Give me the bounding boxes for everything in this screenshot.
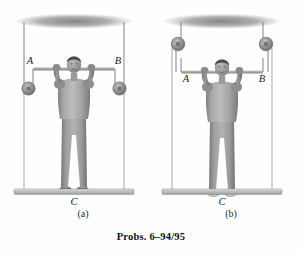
label-point-a-right: B	[115, 55, 122, 66]
panel-caption-a: (a)	[63, 208, 103, 219]
platform-b	[162, 189, 282, 194]
panel-a: A B C	[14, 14, 134, 208]
person-b	[201, 59, 243, 197]
weight-right-a	[113, 82, 126, 95]
panel-caption-b: (b)	[211, 208, 251, 219]
panel-b: A B C	[162, 14, 282, 208]
mechanics-figure-illustration: A B C	[0, 0, 302, 253]
label-point-a-ground: C	[70, 196, 78, 207]
ceiling-a	[16, 14, 132, 29]
person-a	[53, 56, 95, 194]
label-point-b-ground: C	[218, 196, 226, 207]
pulley-left-b	[171, 37, 185, 51]
figure-caption: Probs. 6–94/95	[0, 231, 302, 242]
platform-a	[14, 189, 134, 194]
weight-left-a	[22, 82, 35, 95]
figure-container: A B C	[0, 0, 302, 253]
label-point-b-right: B	[259, 73, 266, 84]
label-point-a-left: A	[26, 55, 34, 66]
pulley-right-b	[259, 37, 273, 51]
label-point-b-left: A	[182, 73, 190, 84]
